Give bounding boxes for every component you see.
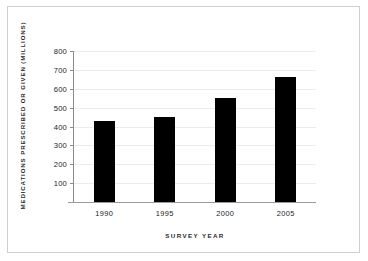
y-tick-mark: [70, 70, 74, 71]
x-tick-label: 2005: [277, 209, 295, 218]
y-tick-label: 600: [54, 84, 67, 93]
plot-area: 100200300400500600700800 199019952000200…: [74, 51, 316, 202]
chart-figure: MEDICATIONS PRESCRIBED OR GIVEN (MILLION…: [0, 0, 368, 261]
x-tick-label: 2000: [216, 209, 234, 218]
bar: [94, 121, 115, 202]
y-tick-label: 200: [54, 160, 67, 169]
y-tick-label: 500: [54, 103, 67, 112]
y-axis-title: MEDICATIONS PRESCRIBED OR GIVEN (MILLION…: [19, 16, 26, 216]
y-tick-mark: [70, 164, 74, 165]
y-tick-label: 300: [54, 141, 67, 150]
y-tick-mark: [70, 89, 74, 90]
gridline: [74, 51, 316, 52]
x-tick-label: 1990: [95, 209, 113, 218]
y-tick-mark: [70, 145, 74, 146]
y-tick-mark: [70, 127, 74, 128]
y-tick-label: 800: [54, 47, 67, 56]
y-tick-label: 700: [54, 65, 67, 74]
y-tick-mark: [70, 51, 74, 52]
y-tick-label: 400: [54, 122, 67, 131]
y-tick-label: 100: [54, 179, 67, 188]
bar: [275, 77, 296, 202]
y-tick-mark: [70, 108, 74, 109]
y-tick-mark: [70, 183, 74, 184]
bar: [215, 98, 236, 202]
x-tick-label: 1995: [156, 209, 174, 218]
x-axis-line: [68, 202, 316, 203]
bar: [154, 117, 175, 202]
x-axis-title: SURVEY YEAR: [74, 232, 316, 239]
gridline: [74, 70, 316, 71]
